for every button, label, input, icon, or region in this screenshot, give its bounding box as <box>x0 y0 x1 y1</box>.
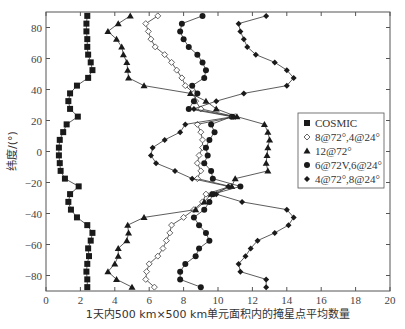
y-tick-label: 80 <box>31 22 43 34</box>
legend-item: 6@72V,6@24° <box>304 159 382 171</box>
y-axis-title: 纬度/(°) <box>5 131 19 171</box>
x-tick-label: 4 <box>112 294 118 306</box>
legend-item: 4@72°,8@24° <box>304 173 380 185</box>
y-tick-label: −60 <box>25 239 43 251</box>
series-1 <box>143 13 238 290</box>
x-tick-label: 12 <box>247 294 258 306</box>
legend-label: 12@72° <box>315 145 352 157</box>
y-tick-label: −80 <box>25 270 43 282</box>
legend: COSMIC8@72°,4@24°12@72°6@72V,6@24°4@72°,… <box>298 113 384 188</box>
series-0 <box>56 13 96 290</box>
x-tick-label: 14 <box>281 294 293 306</box>
chart: 02468101214161820−80−60−40−20020406080 C… <box>0 0 405 329</box>
y-tick-label: 20 <box>31 115 43 127</box>
x-tick-label: 10 <box>213 294 225 306</box>
series-layer <box>56 12 297 290</box>
x-tick-label: 2 <box>78 294 84 306</box>
legend-label: 8@72°,4@24° <box>315 131 380 143</box>
legend-label: 6@72V,6@24° <box>315 159 382 171</box>
series-2 <box>104 12 273 289</box>
x-tick-label: 8 <box>181 294 187 306</box>
series-4 <box>148 13 297 290</box>
x-axis-title: 1天内500 km×500 km单元面积内的掩星点平均数量 <box>86 307 350 321</box>
x-tick-label: 16 <box>316 294 328 306</box>
y-tick-label: 0 <box>37 146 43 158</box>
x-tick-label: 18 <box>350 294 362 306</box>
legend-label: COSMIC <box>315 117 357 129</box>
x-tick-label: 0 <box>43 294 49 306</box>
y-tick-label: −20 <box>25 177 43 189</box>
x-tick-label: 6 <box>146 294 152 306</box>
x-tick-label: 20 <box>385 294 397 306</box>
legend-label: 4@72°,8@24° <box>315 173 380 185</box>
legend-item: 8@72°,4@24° <box>304 131 380 143</box>
y-tick-label: −40 <box>25 208 43 220</box>
y-tick-label: 60 <box>31 53 43 65</box>
y-tick-label: 40 <box>31 84 43 96</box>
series-3 <box>177 13 243 290</box>
